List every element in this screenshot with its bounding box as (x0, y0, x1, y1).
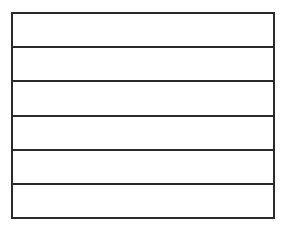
row-5-text (13, 151, 21, 171)
row-6 (13, 183, 273, 217)
row-2 (13, 46, 273, 80)
row-3 (13, 80, 273, 114)
row-6-text (13, 185, 21, 205)
row-4 (13, 115, 273, 149)
row-1-text (13, 14, 21, 34)
row-3-text (13, 82, 21, 102)
ruled-box (11, 12, 275, 219)
row-4-text (13, 117, 21, 137)
row-1 (13, 14, 273, 46)
row-5 (13, 149, 273, 183)
row-2-text (13, 48, 21, 68)
